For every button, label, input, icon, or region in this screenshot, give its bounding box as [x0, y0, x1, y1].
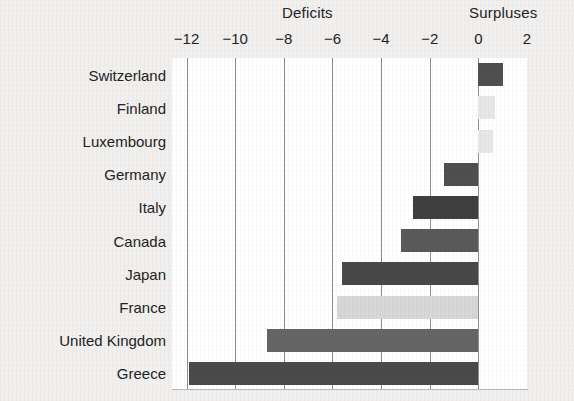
- x-tick-label: −10: [222, 30, 247, 47]
- bar: [189, 362, 478, 385]
- x-axis-tick-labels: −12−10−8−6−4−202: [0, 30, 574, 52]
- category-label: Italy: [0, 200, 166, 215]
- bar: [413, 196, 479, 219]
- surpluses-header-label: Surpluses: [469, 4, 538, 21]
- plot-area: [172, 58, 527, 390]
- category-label: Finland: [0, 100, 166, 115]
- bar: [478, 96, 495, 119]
- x-tick-label: −12: [174, 30, 199, 47]
- bar: [267, 329, 479, 352]
- category-label: Switzerland: [0, 67, 166, 82]
- gridline: [235, 58, 236, 390]
- x-tick-label: −8: [275, 30, 292, 47]
- x-tick-label: −6: [324, 30, 341, 47]
- gridline: [187, 58, 188, 390]
- category-label: France: [0, 300, 166, 315]
- bar: [342, 262, 478, 285]
- bar: [444, 163, 478, 186]
- x-tick-label: 0: [474, 30, 482, 47]
- bar: [478, 130, 493, 153]
- y-axis-category-labels: SwitzerlandFinlandLuxembourgGermanyItaly…: [0, 58, 166, 390]
- bar: [478, 63, 502, 86]
- x-tick-label: −2: [421, 30, 438, 47]
- category-label: Canada: [0, 233, 166, 248]
- x-tick-label: −4: [373, 30, 390, 47]
- plot-bottom-border: [172, 389, 528, 390]
- deficits-header-label: Deficits: [282, 4, 333, 21]
- category-label: Greece: [0, 366, 166, 381]
- chart-root: Deficits Surpluses −12−10−8−6−4−202 Swit…: [0, 0, 574, 401]
- category-label: United Kingdom: [0, 333, 166, 348]
- category-label: Luxembourg: [0, 134, 166, 149]
- x-tick-label: 2: [523, 30, 531, 47]
- category-label: Japan: [0, 266, 166, 281]
- category-label: Germany: [0, 167, 166, 182]
- bar: [337, 296, 478, 319]
- bar: [401, 229, 479, 252]
